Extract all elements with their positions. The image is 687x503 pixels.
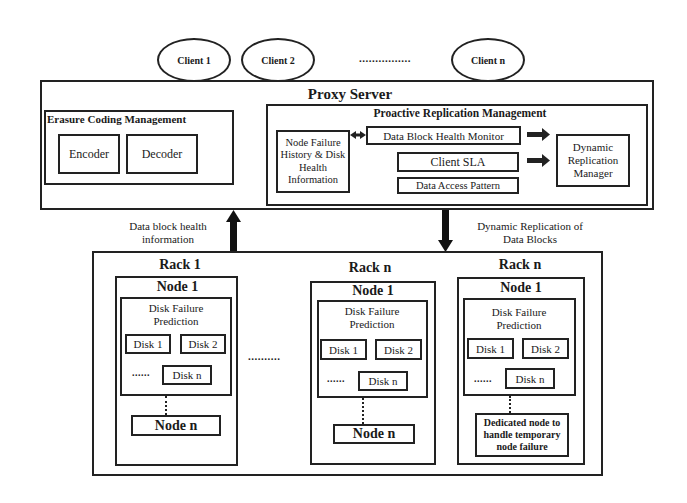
rack-1-node-connector xyxy=(165,396,167,415)
rack-n-disk-2: Disk 2 xyxy=(375,339,422,360)
disk-label: Disk 2 xyxy=(384,344,413,356)
dedicated-node-box: Dedicated node to handle temporary node … xyxy=(475,413,569,457)
up-arrow-icon xyxy=(226,210,241,252)
rack-1-title: Rack 1 xyxy=(140,257,220,273)
rack-1-node-n: Node n xyxy=(131,415,221,436)
up-arrow-label: Data block health information xyxy=(118,220,218,246)
down-arrow-label: Dynamic Replication of Data Blocks xyxy=(470,220,590,246)
rack-n2-disk-n: Disk n xyxy=(505,368,555,389)
right-arrow-icon xyxy=(527,128,550,141)
node-n-label: Node n xyxy=(155,418,197,434)
disk-label: Disk 2 xyxy=(531,343,560,355)
disk-label: Disk 1 xyxy=(329,344,358,356)
disk-label: Disk n xyxy=(172,369,201,381)
rack-n-prediction-label: Disk Failure Prediction xyxy=(336,305,408,331)
rack-n-disk-dots: ...... xyxy=(327,373,345,384)
rack-n2-disk-1: Disk 1 xyxy=(467,338,514,359)
rack-n2-disk-2: Disk 2 xyxy=(522,338,569,359)
rack-n2-title: Rack n xyxy=(480,257,560,273)
rack-n2-prediction-label: Disk Failure Prediction xyxy=(483,306,555,332)
rack-1-disk-dots: ...... xyxy=(132,367,150,378)
rack-n2-node-1-title: Node 1 xyxy=(478,280,564,296)
disk-label: Disk n xyxy=(368,375,397,387)
disk-label: Disk 1 xyxy=(133,338,162,350)
rack-n2-disk-dots: ...... xyxy=(474,373,492,384)
rack-n-title: Rack n xyxy=(330,260,410,276)
node-n-label: Node n xyxy=(353,426,395,442)
disk-label: Disk 2 xyxy=(188,338,217,350)
rack-1-disk-1: Disk 1 xyxy=(125,334,171,354)
disk-label: Disk 1 xyxy=(476,343,505,355)
rack-n-node-1-title: Node 1 xyxy=(330,283,416,299)
rack-1-prediction-label: Disk Failure Prediction xyxy=(140,302,212,328)
rack-n-node-n: Node n xyxy=(333,424,415,444)
right-arrow-icon xyxy=(527,154,550,167)
rack-1-node-1-title: Node 1 xyxy=(135,279,220,295)
dedicated-node-label: Dedicated node to handle temporary node … xyxy=(478,417,566,453)
racks-ellipsis: .......... xyxy=(248,350,281,362)
rack-n-disk-n: Disk n xyxy=(358,371,408,391)
rack-1-disk-n: Disk n xyxy=(162,365,212,385)
rack-n-node-connector xyxy=(362,398,364,424)
rack-1-disk-2: Disk 2 xyxy=(180,334,226,354)
disk-label: Disk n xyxy=(515,373,544,385)
down-arrow-icon xyxy=(438,210,453,252)
rack-n-disk-1: Disk 1 xyxy=(320,339,367,360)
rack-n2-node-connector xyxy=(509,396,511,413)
bidirectional-arrow-icon xyxy=(350,131,366,139)
